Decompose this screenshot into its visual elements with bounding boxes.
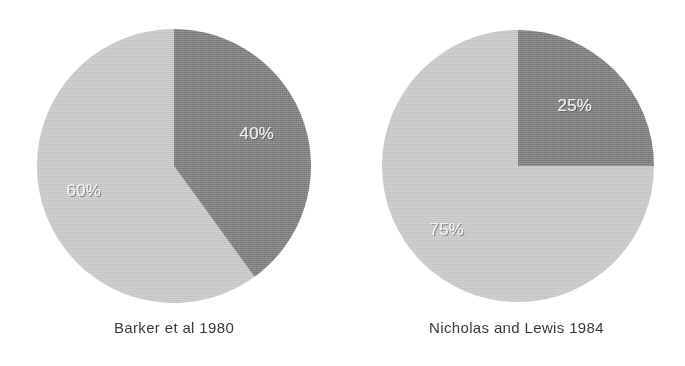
pie-slice-dark-25 [518,30,654,166]
pie-svg-nicholas-lewis [382,30,654,302]
pie-svg-barker [37,29,311,303]
pie-graphic-nicholas-lewis: 25% 75% [382,30,654,302]
figure-pie-chart-pair: 40% 60% Barker et al 1980 25% 75% Nichol… [0,0,685,366]
pie-chart-barker: 40% 60% Barker et al 1980 [0,0,348,366]
chart-caption-barker: Barker et al 1980 [0,319,348,336]
chart-caption-nicholas-lewis: Nicholas and Lewis 1984 [348,319,685,336]
pie-chart-nicholas-lewis: 25% 75% Nicholas and Lewis 1984 [348,0,685,366]
pie-graphic-barker: 40% 60% [37,29,311,303]
